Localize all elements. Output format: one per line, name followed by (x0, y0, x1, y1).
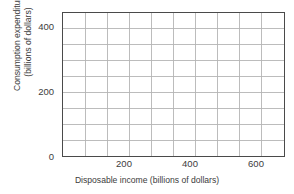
grid-lines (63, 13, 284, 156)
plot-area (62, 12, 285, 157)
x-axis-tick-labels: 200 400 600 (0, 159, 294, 173)
x-tick-label-600: 600 (248, 159, 264, 169)
x-axis-title: Disposable income (billions of dollars) (0, 175, 294, 186)
y-tick-label-200: 200 (38, 87, 54, 97)
y-tick-label-400: 400 (38, 22, 54, 32)
x-tick-label-400: 400 (182, 159, 198, 169)
chart-figure: Consumption expenditure (billions of dol… (0, 0, 294, 194)
x-tick-label-200: 200 (116, 159, 132, 169)
